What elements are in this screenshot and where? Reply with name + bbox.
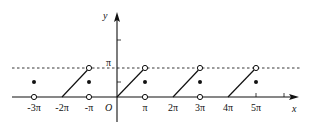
open-point (142, 65, 147, 70)
filled-point (32, 80, 36, 84)
filled-point (198, 80, 202, 84)
x-tick-label: 4π (223, 102, 233, 113)
x-tick-label: -2π (55, 102, 68, 113)
filled-point (87, 80, 91, 84)
x-tick-label: -3π (27, 102, 40, 113)
filled-point (254, 80, 258, 84)
open-point (197, 94, 202, 99)
x-axis-label: x (291, 103, 297, 114)
open-point (31, 94, 36, 99)
open-point (86, 94, 91, 99)
open-point (142, 94, 147, 99)
ramp-segment (62, 70, 88, 97)
open-point (197, 65, 202, 70)
y-tick-label-pi: π (106, 57, 111, 68)
x-tick-label: 2π (168, 102, 178, 113)
x-tick-label: 5π (251, 102, 261, 113)
open-point (253, 65, 258, 70)
x-tick-label: π (142, 102, 147, 113)
x-tick-label: 3π (195, 102, 205, 113)
filled-point (143, 80, 147, 84)
y-axis-label: y (102, 10, 108, 21)
open-point (86, 65, 91, 70)
origin-label: O (105, 102, 112, 113)
ramp-segment (228, 70, 254, 97)
fourier-graph: y x O π -3π -2π -π π 2π 3π 4π 5π (0, 0, 313, 129)
ramp-segment (173, 70, 199, 97)
x-tick-label: -π (85, 102, 93, 113)
ramp-segment (117, 70, 143, 97)
